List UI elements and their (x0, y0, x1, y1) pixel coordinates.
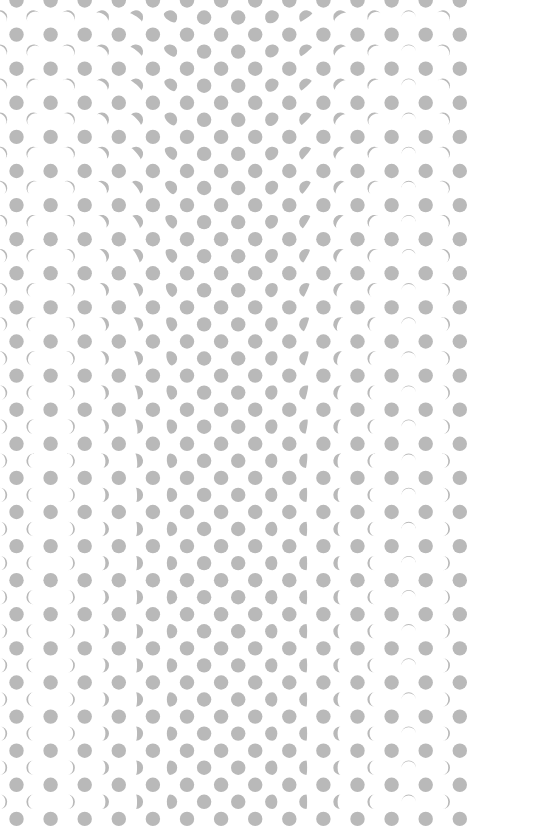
moon-phase-dot (231, 113, 245, 127)
full-dot (180, 61, 194, 75)
full-dot (419, 812, 433, 826)
full-dot (419, 709, 433, 723)
full-dot (112, 573, 126, 587)
full-dot (282, 266, 296, 280)
full-dot (43, 27, 57, 41)
full-dot (112, 744, 126, 758)
full-dot (180, 709, 194, 723)
full-dot (43, 812, 57, 826)
full-dot (146, 709, 160, 723)
moon-phase-dot (197, 420, 211, 434)
full-dot (112, 232, 126, 246)
full-dot (180, 539, 194, 553)
full-dot (78, 675, 92, 689)
moon-phase-dot (231, 147, 245, 161)
full-dot (9, 232, 23, 246)
full-dot (282, 437, 296, 451)
full-dot (78, 334, 92, 348)
moon-phase-dot (197, 761, 211, 775)
full-dot (112, 778, 126, 792)
full-dot (146, 471, 160, 485)
full-dot (384, 164, 398, 178)
full-dot (180, 27, 194, 41)
full-dot (78, 232, 92, 246)
full-dot (78, 573, 92, 587)
full-dot (350, 607, 364, 621)
full-dot (453, 641, 467, 655)
full-dot (316, 744, 330, 758)
full-dot (350, 778, 364, 792)
full-dot (112, 300, 126, 314)
full-dot (146, 539, 160, 553)
full-dot (214, 437, 228, 451)
full-dot (282, 675, 296, 689)
full-dot (248, 675, 262, 689)
full-dot (78, 709, 92, 723)
full-dot (43, 539, 57, 553)
full-dot (78, 778, 92, 792)
full-dot (180, 778, 194, 792)
full-dot (248, 266, 262, 280)
moon-phase-dot (197, 488, 211, 502)
full-dot (350, 266, 364, 280)
full-dot (112, 812, 126, 826)
full-dot (214, 164, 228, 178)
full-dot (282, 403, 296, 417)
full-dot (180, 437, 194, 451)
full-dot (9, 812, 23, 826)
full-dot (453, 334, 467, 348)
full-dot (112, 641, 126, 655)
full-dot (350, 812, 364, 826)
full-dot (419, 778, 433, 792)
full-dot (282, 232, 296, 246)
full-dot (350, 709, 364, 723)
full-dot (146, 675, 160, 689)
moon-phase-dot (197, 317, 211, 331)
full-dot (78, 505, 92, 519)
full-dot (43, 505, 57, 519)
full-dot (146, 641, 160, 655)
full-dot (9, 709, 23, 723)
full-dot (419, 300, 433, 314)
full-dot (43, 403, 57, 417)
full-dot (453, 61, 467, 75)
moon-phase-dot (231, 590, 245, 604)
moon-phase-dot (197, 10, 211, 24)
full-dot (316, 607, 330, 621)
full-dot (350, 437, 364, 451)
full-dot (248, 164, 262, 178)
full-dot (9, 334, 23, 348)
moon-phase-dot (231, 420, 245, 434)
full-dot (384, 96, 398, 110)
full-dot (384, 368, 398, 382)
full-dot (453, 778, 467, 792)
full-dot (384, 437, 398, 451)
full-dot (43, 573, 57, 587)
full-dot (350, 505, 364, 519)
full-dot (350, 744, 364, 758)
full-dot (248, 471, 262, 485)
full-dot (384, 232, 398, 246)
full-dot (316, 96, 330, 110)
full-dot (180, 334, 194, 348)
full-dot (248, 812, 262, 826)
full-dot (419, 573, 433, 587)
full-dot (78, 437, 92, 451)
full-dot (419, 27, 433, 41)
full-dot (282, 744, 296, 758)
full-dot (146, 130, 160, 144)
full-dot (43, 232, 57, 246)
full-dot (112, 198, 126, 212)
full-dot (214, 709, 228, 723)
full-dot (453, 539, 467, 553)
full-dot (146, 744, 160, 758)
full-dot (214, 27, 228, 41)
full-dot (316, 61, 330, 75)
full-dot (78, 607, 92, 621)
full-dot (384, 403, 398, 417)
moon-phase-dot (197, 590, 211, 604)
full-dot (214, 744, 228, 758)
moon-phase-dot (197, 351, 211, 365)
full-dot (214, 778, 228, 792)
full-dot (350, 368, 364, 382)
